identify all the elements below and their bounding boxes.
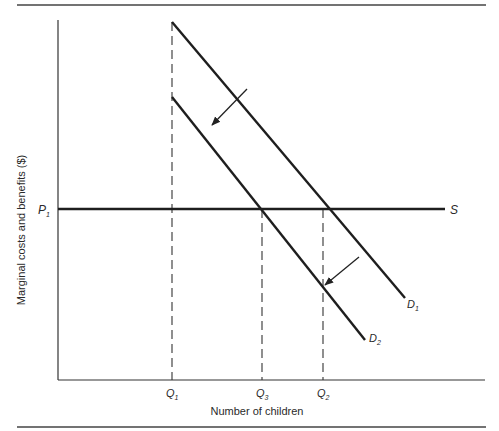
x-axis-title: Number of children: [211, 405, 304, 417]
q1-label: Q1: [166, 387, 179, 401]
chart-figure: Marginal costs and benefits ($) P1 S D1 …: [0, 0, 499, 431]
p1-label: P1: [38, 203, 50, 218]
d2-label: D2: [369, 332, 381, 346]
y-axis-title: Marginal costs and benefits ($): [15, 155, 27, 305]
shift-arrow-lower: [325, 257, 359, 285]
q3-label: Q3: [256, 387, 269, 401]
demand-curve-d2: [172, 97, 365, 340]
d1-label: D1: [407, 298, 419, 312]
demand-curve-d1: [172, 22, 405, 298]
shift-arrow-upper: [212, 89, 247, 125]
q2-label: Q2: [317, 387, 330, 401]
s-label: S: [450, 203, 458, 217]
